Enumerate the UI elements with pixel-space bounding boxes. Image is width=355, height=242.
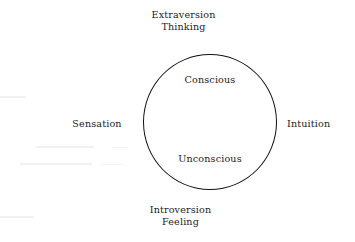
label-extraversion: Extraversion <box>6 9 355 21</box>
scan-artifact <box>112 147 128 148</box>
label-unconscious: Unconscious <box>143 153 277 165</box>
scan-artifact <box>36 146 94 148</box>
label-intuition: Intuition <box>287 118 353 130</box>
label-sensation: Sensation <box>58 118 136 130</box>
label-bottom-introversion-feeling: Introversion Feeling <box>3 204 355 228</box>
psyche-diagram: Extraversion Thinking Sensation Intuitio… <box>0 0 355 242</box>
label-introversion: Introversion <box>3 204 355 216</box>
label-top-extraversion-thinking: Extraversion Thinking <box>6 9 355 33</box>
label-thinking: Thinking <box>6 21 355 33</box>
scan-artifact <box>20 163 92 165</box>
label-feeling: Feeling <box>3 216 355 228</box>
label-conscious: Conscious <box>143 74 277 86</box>
scan-artifact <box>0 96 26 98</box>
scan-artifact <box>100 164 122 165</box>
